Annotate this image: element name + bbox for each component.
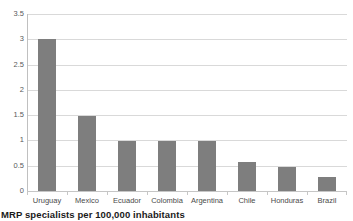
y-tick-label: 1.5 xyxy=(2,111,24,119)
y-tick-label: 1 xyxy=(2,137,24,145)
x-label-colombia: Colombia xyxy=(147,195,187,206)
bar-colombia xyxy=(158,141,176,191)
x-label-mexico: Mexico xyxy=(67,195,107,206)
bar-mexico xyxy=(78,116,96,191)
x-axis-tick-labels: UruguayMexicoEcuadorColombiaArgentinaChi… xyxy=(27,195,347,207)
y-tick-label: 0.5 xyxy=(2,162,24,170)
bar-uruguay xyxy=(38,39,56,191)
chart-caption: MRP specialists per 100,000 inhabitants xyxy=(1,209,185,221)
y-tick-label: 3 xyxy=(2,36,24,44)
y-tick-label: 3.5 xyxy=(2,10,24,18)
bar-ecuador xyxy=(118,141,136,191)
chart-plot-region: 00.511.522.533.5 UruguayMexicoEcuadorCol… xyxy=(0,0,353,206)
x-label-brazil: Brazil xyxy=(307,195,347,206)
bar-brazil xyxy=(318,177,336,191)
x-label-honduras: Honduras xyxy=(267,195,307,206)
x-label-ecuador: Ecuador xyxy=(107,195,147,206)
y-tick-label: 2.5 xyxy=(2,61,24,69)
bar-honduras xyxy=(278,167,296,191)
x-label-chile: Chile xyxy=(227,195,267,206)
y-tick-label: 0 xyxy=(2,187,24,195)
bar-chart-screenshot: 00.511.522.533.5 UruguayMexicoEcuadorCol… xyxy=(0,0,353,221)
bar-chile xyxy=(238,162,256,191)
y-axis-tick-labels: 00.511.522.533.5 xyxy=(0,14,24,191)
x-label-uruguay: Uruguay xyxy=(27,195,67,206)
y-tick-label: 2 xyxy=(2,86,24,94)
x-label-argentina: Argentina xyxy=(187,195,227,206)
bar-series xyxy=(27,14,347,191)
bar-argentina xyxy=(198,141,216,191)
